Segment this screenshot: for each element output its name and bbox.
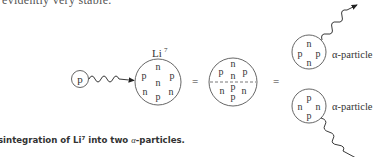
svg-text:p: p — [77, 73, 83, 85]
svg-text:7: 7 — [164, 46, 168, 54]
svg-text:n: n — [242, 85, 247, 96]
svg-text:p: p — [170, 70, 175, 81]
svg-text:p: p — [307, 92, 312, 103]
alpha-particle-top: n p p n α-particle — [292, 35, 373, 69]
equals-sign-2: = — [273, 75, 279, 87]
svg-text:n: n — [307, 38, 312, 49]
svg-text:α-particle: α-particle — [332, 101, 373, 112]
svg-text:p: p — [231, 91, 236, 102]
svg-text:p: p — [219, 66, 224, 77]
outgoing-wave-arrow-bottom — [321, 118, 356, 157]
svg-text:p: p — [156, 91, 161, 102]
svg-text:n: n — [169, 86, 174, 97]
svg-text:p: p — [316, 48, 321, 59]
svg-text:n: n — [143, 86, 148, 97]
incoming-proton: p — [72, 71, 89, 88]
split-nucleus: n p n p p n n p — [209, 58, 257, 106]
svg-text:α-particle: α-particle — [332, 49, 373, 60]
lithium-7-nucleus: Li 7 n p p n n n p — [135, 46, 181, 105]
svg-text:n: n — [156, 77, 161, 88]
svg-text:p: p — [243, 66, 248, 77]
alpha-particle-bottom: p n n p α-particle — [292, 89, 373, 123]
svg-text:n: n — [298, 101, 303, 112]
svg-text:n: n — [156, 61, 161, 72]
outgoing-wave-arrow-top — [322, 5, 357, 40]
svg-text:n: n — [316, 101, 321, 112]
svg-text:Li: Li — [152, 47, 162, 59]
incoming-wave-arrow — [89, 76, 134, 82]
nuclear-disintegration-diagram: p Li 7 n p p n n n p = n p n p p n n p =… — [0, 0, 382, 157]
svg-text:p: p — [142, 70, 147, 81]
svg-text:n: n — [307, 57, 312, 68]
equals-sign-1: = — [192, 75, 198, 87]
svg-text:n: n — [231, 58, 236, 69]
figure-caption: sintegration of Li7 into two α-particles… — [0, 135, 185, 145]
svg-text:n: n — [231, 70, 236, 81]
svg-text:p: p — [307, 110, 312, 121]
svg-text:p: p — [298, 48, 303, 59]
svg-text:n: n — [220, 85, 225, 96]
